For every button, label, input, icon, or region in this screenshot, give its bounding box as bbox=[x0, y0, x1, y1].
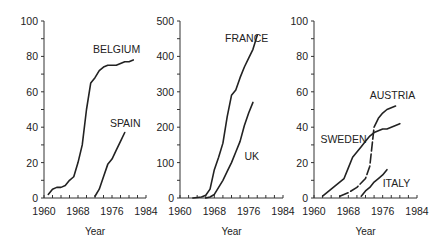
series-line-spain bbox=[95, 133, 125, 197]
x-tick-label: 1968 bbox=[337, 205, 361, 217]
x-tick-label: 1976 bbox=[371, 205, 395, 217]
x-axis-title: Year bbox=[355, 226, 376, 237]
x-axis-title: Year bbox=[221, 226, 242, 237]
y-tick-label: 100 bbox=[156, 157, 174, 169]
y-tick-label: 0 bbox=[302, 192, 308, 204]
series-label-uk: UK bbox=[244, 150, 259, 162]
x-tick-label: 1960 bbox=[302, 205, 326, 217]
y-tick-label: 40 bbox=[296, 121, 308, 133]
x-tick-label: 1968 bbox=[66, 205, 90, 217]
x-tick-label: 1968 bbox=[203, 205, 227, 217]
x-tick-label: 1976 bbox=[100, 205, 124, 217]
series-label-belgium: BELGIUM bbox=[93, 43, 140, 55]
x-tick-label: 1984 bbox=[405, 205, 429, 217]
x-tick-label: 1984 bbox=[134, 205, 158, 217]
y-tick-label: 200 bbox=[156, 121, 174, 133]
y-tick-label: 0 bbox=[32, 192, 38, 204]
y-tick-label: 80 bbox=[296, 50, 308, 62]
y-tick-label: 0 bbox=[168, 192, 174, 204]
y-tick-label: 20 bbox=[296, 157, 308, 169]
chart-panel-france-uk: 01002003004005001960196819761984YearFRAN… bbox=[156, 15, 294, 237]
x-tick-label: 1960 bbox=[32, 205, 56, 217]
y-tick-label: 40 bbox=[26, 121, 38, 133]
y-tick-label: 60 bbox=[296, 86, 308, 98]
y-tick-label: 100 bbox=[290, 15, 308, 27]
y-tick-label: 60 bbox=[26, 86, 38, 98]
x-tick-label: 1984 bbox=[271, 205, 295, 217]
chart-panel-belgium-spain: 0204060801001960196819761984YearBELGIUMS… bbox=[20, 15, 157, 237]
y-tick-label: 80 bbox=[26, 50, 38, 62]
chart-figure: 0204060801001960196819761984YearBELGIUMS… bbox=[0, 0, 448, 249]
chart-panel-austria-sweden-italy: 0204060801001960196819761984YearAUSTRIAS… bbox=[290, 15, 428, 237]
series-label-spain: SPAIN bbox=[110, 117, 141, 129]
y-tick-label: 500 bbox=[156, 15, 174, 27]
y-tick-label: 100 bbox=[20, 15, 38, 27]
y-tick-label: 400 bbox=[156, 50, 174, 62]
y-tick-label: 300 bbox=[156, 86, 174, 98]
series-label-italy: ITALY bbox=[383, 177, 411, 189]
series-label-france: FRANCE bbox=[225, 32, 268, 44]
x-tick-label: 1960 bbox=[168, 205, 192, 217]
x-tick-label: 1976 bbox=[237, 205, 261, 217]
series-label-sweden: SWEDEN bbox=[320, 133, 366, 145]
series-label-austria: AUSTRIA bbox=[370, 89, 416, 101]
x-axis-title: Year bbox=[85, 226, 106, 237]
y-tick-label: 20 bbox=[26, 157, 38, 169]
series-line-austria bbox=[378, 106, 395, 118]
